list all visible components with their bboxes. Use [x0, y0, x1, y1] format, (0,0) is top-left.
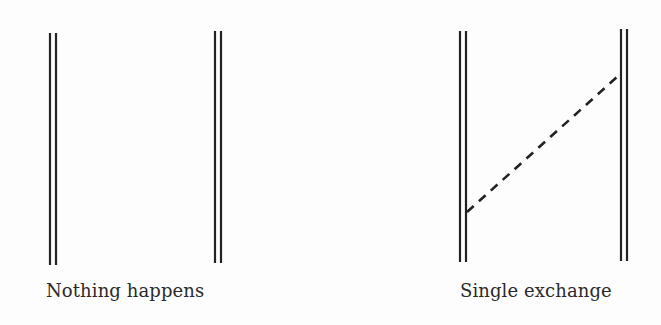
- diagram-canvas: [0, 0, 661, 325]
- caption-nothing-happens: Nothing happens: [46, 280, 204, 301]
- worldline-right-a: [460, 31, 466, 262]
- panel-nothing-happens: [50, 31, 221, 265]
- worldline-left-b: [215, 31, 221, 263]
- exchange-dashed-line: [467, 77, 617, 212]
- panel-single-exchange: [460, 29, 627, 262]
- worldline-right-b: [621, 29, 627, 261]
- worldline-left-a: [50, 33, 56, 265]
- caption-single-exchange: Single exchange: [460, 280, 612, 301]
